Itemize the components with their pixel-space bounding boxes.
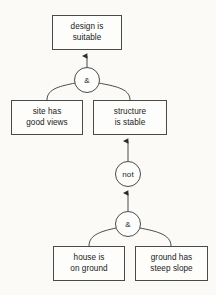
and-gate-label: & (84, 76, 89, 85)
node-site-has-good-views[interactable]: site has good views (11, 100, 83, 135)
node-ground-has-steep-slope[interactable]: ground has steep slope (135, 246, 208, 281)
connector-ground-to-and-bottom (140, 228, 171, 246)
node-label-line2: on ground (70, 264, 107, 274)
node-label-line1: site has (33, 107, 62, 117)
diagram-canvas: design is suitable site has good views s… (0, 0, 216, 295)
node-label-line2: suitable (73, 33, 102, 43)
connector-structure-to-and-top (99, 83, 130, 100)
node-label-line2: good views (26, 118, 67, 128)
node-label-line1: design is (71, 22, 104, 32)
and-gate-bottom[interactable]: & (115, 211, 141, 237)
not-gate[interactable]: not (115, 161, 141, 187)
node-label-line2: is stable (115, 118, 146, 128)
connector-house-to-and-bottom (89, 228, 116, 246)
node-label-line2: steep slope (150, 264, 192, 274)
not-gate-label: not (122, 170, 134, 179)
node-label-line1: house is (74, 253, 105, 263)
connector-site-to-and-top (47, 83, 75, 100)
node-design-is-suitable[interactable]: design is suitable (52, 15, 122, 50)
node-label-line1: structure (114, 107, 146, 117)
and-gate-label: & (125, 220, 130, 229)
node-label-line1: ground has (151, 253, 192, 263)
node-house-is-on-ground[interactable]: house is on ground (53, 246, 125, 281)
node-structure-is-stable[interactable]: structure is stable (93, 100, 167, 135)
and-gate-top[interactable]: & (74, 67, 100, 93)
